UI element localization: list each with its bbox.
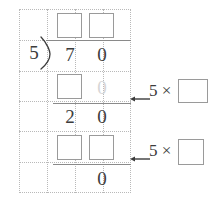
quotient-tens-box[interactable] <box>57 13 82 38</box>
divisor-value: 5 <box>27 41 41 65</box>
hint-2-answer-box[interactable] <box>178 139 204 165</box>
subtract-1-tens-box[interactable] <box>57 74 82 99</box>
left-arrow-icon <box>130 90 150 92</box>
hint-1-answer-box[interactable] <box>178 79 208 103</box>
subtract-2-tens-box[interactable] <box>57 135 82 160</box>
multiplication-hint-2: 5 × <box>130 136 210 166</box>
subtract-1-ones-digit: 0 <box>88 76 116 100</box>
remainder-1-tens-digit: 2 <box>56 105 84 129</box>
division-bracket-icon <box>40 36 54 70</box>
dividend-ones-digit: 0 <box>88 43 116 67</box>
left-arrow-icon <box>130 150 150 152</box>
division-vinculum <box>46 40 131 41</box>
remainder-2-ones-digit: 0 <box>88 167 116 191</box>
subtract-2-ones-box[interactable] <box>89 135 114 160</box>
subtraction-rule-1 <box>53 103 131 104</box>
worksheet-canvas: 5 7 0 0 2 0 0 <box>0 0 212 200</box>
remainder-1-ones-digit: 0 <box>88 105 116 129</box>
hint-2-label: 5 × <box>149 136 171 166</box>
dividend-tens-digit: 7 <box>56 43 84 67</box>
multiplication-hint-1: 5 × <box>130 76 210 106</box>
hint-1-label: 5 × <box>149 76 171 106</box>
subtraction-rule-2 <box>53 164 131 165</box>
quotient-ones-box[interactable] <box>89 13 114 38</box>
